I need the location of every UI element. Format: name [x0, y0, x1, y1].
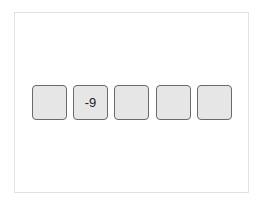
cell-5[interactable]: [197, 85, 232, 120]
cell-2[interactable]: -9: [73, 85, 108, 120]
cell-1[interactable]: [32, 85, 67, 120]
cell-3[interactable]: [114, 85, 149, 120]
cell-4[interactable]: [156, 85, 191, 120]
